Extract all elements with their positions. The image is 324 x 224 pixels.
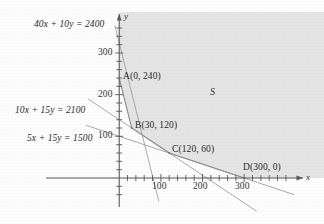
- y-axis-label: y: [124, 12, 128, 21]
- vertex-marker-a: [118, 77, 120, 79]
- y-tick-label-300: 300: [98, 48, 113, 58]
- feasible-region-shading: [119, 12, 324, 178]
- y-tick-label-200: 200: [98, 90, 113, 100]
- vertex-marker-b: [131, 127, 133, 129]
- vertex-label-d: D(300, 0): [243, 163, 281, 173]
- equation-label-40x-10y: 40x + 10y = 2400: [34, 20, 104, 30]
- x-tick-label-300: 300: [235, 182, 250, 192]
- vertex-label-c: C(120, 60): [172, 145, 214, 155]
- vertex-label-b: B(30, 120): [135, 121, 177, 131]
- region-label-s: S: [210, 87, 215, 97]
- vertex-marker-d: [243, 177, 245, 179]
- vertex-marker-c: [168, 152, 170, 154]
- x-tick-label-200: 200: [193, 182, 208, 192]
- y-tick-label-100: 100: [98, 131, 113, 141]
- y-axis-ticks: [115, 28, 123, 195]
- x-axis-label: x: [306, 173, 310, 182]
- equation-label-5x-15y: 5x + 15y = 1500: [27, 134, 93, 144]
- linear-programming-graph: 40x + 10y = 2400 10x + 15y = 2100 5x + 1…: [0, 0, 324, 224]
- x-tick-label-100: 100: [152, 182, 167, 192]
- vertex-label-a: A(0, 240): [123, 72, 161, 82]
- equation-label-10x-15y: 10x + 15y = 2100: [15, 106, 85, 116]
